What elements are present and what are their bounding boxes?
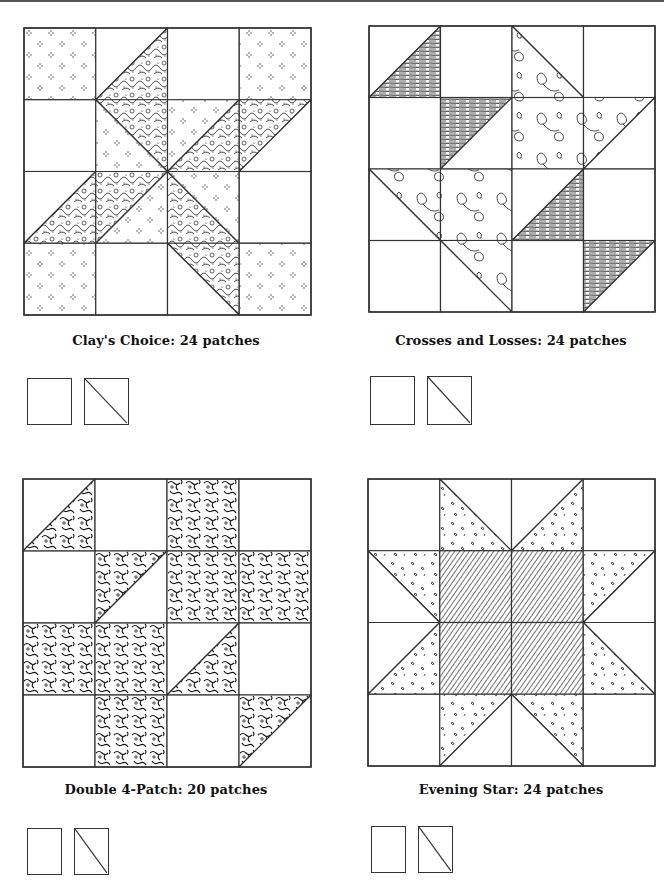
patch-types-legend <box>371 826 453 873</box>
patch-cell <box>168 28 240 100</box>
patch-cell <box>24 100 96 172</box>
patch-cell <box>584 26 656 98</box>
patch-cell <box>583 623 655 695</box>
patch-cell <box>168 243 240 315</box>
patch-cell <box>441 98 513 170</box>
patch-cell <box>440 479 512 551</box>
patch-cell <box>168 172 240 244</box>
patch-cell <box>583 694 655 766</box>
patch-cell <box>584 241 656 313</box>
patch-cell <box>239 479 311 551</box>
patch-cell <box>239 695 311 767</box>
patch-cell <box>512 551 584 623</box>
patch-types-legend <box>27 828 109 875</box>
patch-cell <box>167 695 239 767</box>
patch-types-legend <box>370 376 472 425</box>
patch-cell <box>584 169 656 241</box>
patch-cell <box>440 551 512 623</box>
patch-cell <box>369 26 441 98</box>
patch-cell <box>95 695 167 767</box>
patch-cell <box>512 623 584 695</box>
half-square-triangle-patch-icon <box>84 378 129 425</box>
square-patch-icon <box>371 826 406 873</box>
patch-cell <box>441 26 513 98</box>
patch-types-legend <box>27 378 129 425</box>
patch-cell <box>23 479 95 551</box>
patch-cell <box>441 169 513 241</box>
patch-cell <box>167 551 239 623</box>
patch-cell <box>512 241 584 313</box>
patch-cell <box>23 623 95 695</box>
patch-cell <box>96 100 168 172</box>
patch-cell <box>512 169 584 241</box>
patch-cell <box>239 623 311 695</box>
patch-cell <box>440 694 512 766</box>
block-caption: Crosses and Losses: 24 patches <box>395 333 627 348</box>
patch-cell <box>368 551 440 623</box>
patch-cell <box>368 623 440 695</box>
patch-cell <box>23 695 95 767</box>
patch-cell <box>24 172 96 244</box>
patch-cell <box>23 551 95 623</box>
quilt-block-evening-star <box>367 478 656 767</box>
patch-cell <box>95 623 167 695</box>
patch-cell <box>239 28 311 100</box>
patch-cell <box>96 243 168 315</box>
patch-cell <box>239 100 311 172</box>
patch-cell <box>96 28 168 100</box>
half-square-triangle-patch-icon <box>74 828 109 875</box>
patch-cell <box>368 479 440 551</box>
patch-cell <box>512 26 584 98</box>
patch-cell <box>512 98 584 170</box>
patch-cell <box>24 243 96 315</box>
half-square-triangle-patch-icon <box>418 826 453 873</box>
square-patch-icon <box>27 378 72 425</box>
patch-cell <box>167 479 239 551</box>
patch-cell <box>583 479 655 551</box>
block-caption: Clay's Choice: 24 patches <box>72 333 260 348</box>
patch-cell <box>24 28 96 100</box>
quilt-block-crosses-and-losses <box>368 25 656 313</box>
patch-cell <box>239 551 311 623</box>
patch-cell <box>96 172 168 244</box>
quilt-block-clays-choice <box>23 27 312 316</box>
page-top-rule <box>0 0 664 2</box>
patch-cell <box>369 98 441 170</box>
quilt-block-double-4-patch <box>22 478 312 768</box>
square-patch-icon <box>370 376 415 425</box>
patch-cell <box>369 169 441 241</box>
patch-cell <box>369 241 441 313</box>
patch-cell <box>512 694 584 766</box>
patch-cell <box>441 241 513 313</box>
patch-cell <box>239 172 311 244</box>
patch-cell <box>95 551 167 623</box>
patch-cell <box>584 98 656 170</box>
patch-cell <box>95 479 167 551</box>
patch-cell <box>168 100 240 172</box>
patch-cell <box>167 623 239 695</box>
patch-cell <box>583 551 655 623</box>
patch-cell <box>239 243 311 315</box>
patch-cell <box>512 479 584 551</box>
patch-cell <box>368 694 440 766</box>
patch-cell <box>440 623 512 695</box>
half-square-triangle-patch-icon <box>427 376 472 425</box>
block-caption: Double 4-Patch: 20 patches <box>65 782 268 797</box>
block-caption: Evening Star: 24 patches <box>419 782 604 797</box>
square-patch-icon <box>27 828 62 875</box>
